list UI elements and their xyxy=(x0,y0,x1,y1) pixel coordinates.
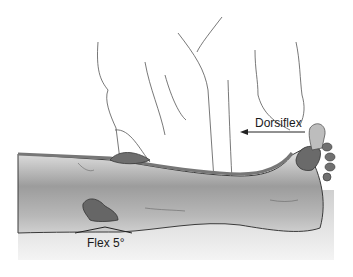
leg-exam-drawing xyxy=(0,0,353,277)
patient-leg xyxy=(18,148,323,233)
arrow-head-icon xyxy=(240,129,248,135)
flex-label: Flex 5° xyxy=(87,236,124,250)
hand-on-foot xyxy=(296,146,321,170)
dorsiflex-label: Dorsiflex xyxy=(255,116,302,130)
illustration: Dorsiflex Flex 5° xyxy=(0,0,353,277)
fingers xyxy=(322,143,335,181)
toes xyxy=(309,124,325,150)
